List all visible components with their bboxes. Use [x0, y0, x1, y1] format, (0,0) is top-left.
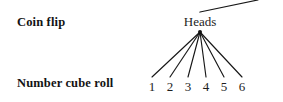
edge-to-outcome-2 — [170, 32, 200, 77]
outcome-label-4: 4 — [203, 79, 210, 95]
edge-from-parent — [200, 0, 258, 12]
probability-tree-diagram: Coin flip Number cube roll Heads 123456 — [0, 0, 283, 102]
outcome-label-5: 5 — [221, 79, 228, 95]
outcome-label-6: 6 — [239, 79, 246, 95]
edge-to-outcome-1 — [152, 32, 200, 77]
branch-node-dot — [198, 30, 202, 34]
outcome-label-2: 2 — [167, 79, 174, 95]
edge-to-outcome-3 — [188, 32, 200, 77]
outcome-label-1: 1 — [149, 79, 156, 95]
outcome-label-3: 3 — [185, 79, 192, 95]
edge-fan-to-outcomes — [152, 32, 242, 77]
